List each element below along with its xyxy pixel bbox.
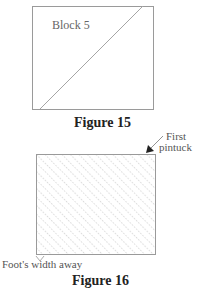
figure-15-caption: Figure 15 <box>74 115 131 131</box>
foot-width-label: Foot's width away <box>2 258 82 270</box>
pintuck-square-fill <box>37 155 156 255</box>
figure-16-caption: Figure 16 <box>72 273 129 289</box>
block-5-label: Block 5 <box>52 18 90 33</box>
block-5-square <box>33 7 154 110</box>
pintuck-label: pintuck <box>159 141 192 153</box>
